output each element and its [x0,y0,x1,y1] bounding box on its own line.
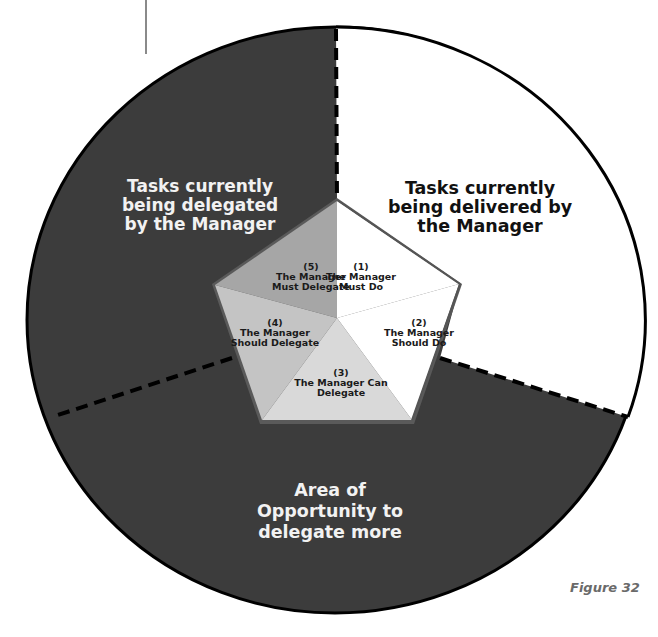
label-area-of-opportunity: Area of Opportunity to delegate more [248,480,412,543]
label-line: being delivered by [382,198,578,217]
segment-text: Should Do [364,338,474,348]
label-line: Tasks currently [100,177,300,196]
figure-caption: Figure 32 [570,580,640,595]
label-line: delegate more [248,522,412,543]
segment-label-must-delegate: (5) The Manager Must Delegate [256,262,366,292]
segment-text: Should Delegate [220,338,330,348]
segment-label-can-delegate: (3) The Manager Can Delegate [286,368,396,398]
label-tasks-delegated: Tasks currently being delegated by the M… [100,177,300,234]
segment-label-should-do: (2) The Manager Should Do [364,318,474,348]
label-line: the Manager [382,217,578,236]
label-line: Tasks currently [382,179,578,198]
label-line: being delegated [100,196,300,215]
segment-text: Must Delegate [256,282,366,292]
label-line: Area of [248,480,412,501]
segment-text: Delegate [286,388,396,398]
segment-label-should-delegate: (4) The Manager Should Delegate [220,318,330,348]
label-line: by the Manager [100,215,300,234]
label-tasks-delivered: Tasks currently being delivered by the M… [382,179,578,236]
label-line: Opportunity to [248,501,412,522]
